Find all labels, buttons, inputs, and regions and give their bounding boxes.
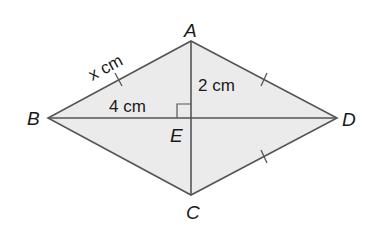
vertex-label-d: D [342,109,356,130]
vertex-label-c: C [186,202,200,223]
length-label-ae: 2 cm [198,76,235,95]
vertex-label-b: B [27,108,40,129]
vertex-label-a: A [183,20,197,41]
vertex-label-e: E [170,125,183,146]
rhombus-diagram: A B C D E x cm 4 cm 2 cm [0,0,370,232]
length-label-be: 4 cm [109,97,146,116]
